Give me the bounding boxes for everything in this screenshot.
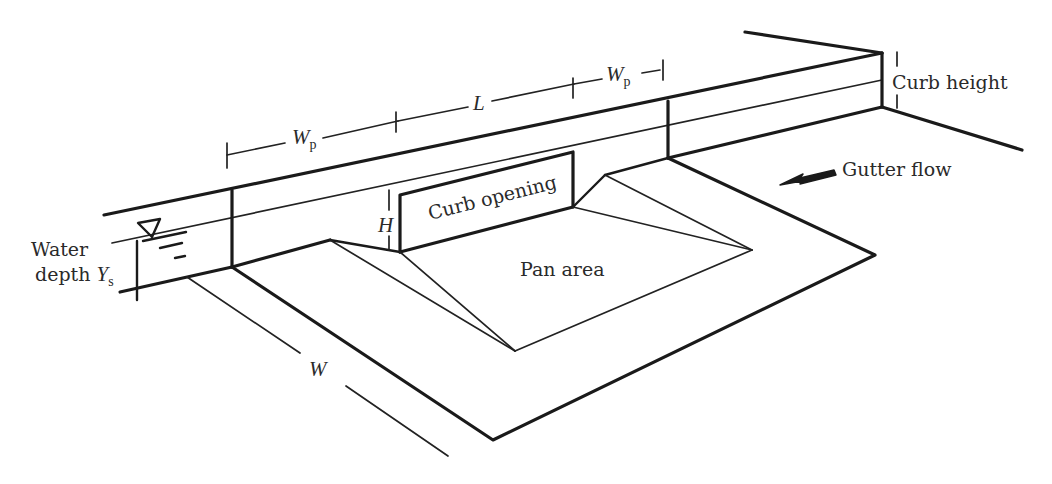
pan-transition-right-top xyxy=(605,158,668,175)
dim-segment-3 xyxy=(398,107,468,121)
curb-opening-inlet-diagram: Curb opening Pan area Water depth Ys Wp … xyxy=(0,0,1052,484)
dim-segment-1 xyxy=(227,143,285,155)
wp-right-label: Wp xyxy=(606,62,631,89)
gutter-line-pan-left xyxy=(232,240,330,267)
length-dimension: Wp L Wp xyxy=(227,60,663,168)
gutter-flow-indicator: Gutter flow xyxy=(780,158,952,185)
curb-back-edge xyxy=(745,32,882,53)
pan-fold-left-outer xyxy=(330,240,515,351)
curb-height-dimension: Curb height xyxy=(892,52,1008,108)
arrow-left-icon xyxy=(780,170,836,185)
road-edge-right xyxy=(882,107,1022,150)
water-depth-label-line2: depth Ys xyxy=(35,262,114,289)
pan-area-label: Pan area xyxy=(520,258,605,280)
dim-segment-6 xyxy=(642,70,660,73)
water-depth-label-line1: Water xyxy=(31,238,89,260)
depression-outline xyxy=(232,158,875,440)
opening-height-dimension: H xyxy=(377,190,395,250)
dim-segment-2 xyxy=(323,121,398,138)
w-dim-lower xyxy=(346,386,448,456)
dim-segment-4 xyxy=(492,84,574,101)
w-dim-upper xyxy=(187,277,300,353)
curb-opening-lip xyxy=(400,207,573,252)
width-label: W xyxy=(309,357,329,381)
curb-height-label: Curb height xyxy=(892,71,1008,93)
pan-fold-right-inner xyxy=(573,207,752,250)
height-label: H xyxy=(377,213,395,237)
curb-opening: Curb opening xyxy=(400,152,573,252)
dim-segment-5 xyxy=(574,79,602,84)
pan-fold-left-inner xyxy=(400,252,515,351)
water-surface-line-2 xyxy=(160,243,182,248)
pan-transition-right xyxy=(573,175,605,207)
wp-left-label: Wp xyxy=(292,125,317,152)
width-dimension: W xyxy=(187,277,448,456)
water-depth-indicator: Water depth Ys xyxy=(31,219,186,300)
water-surface-line-3 xyxy=(175,256,185,258)
gutter-flow-label: Gutter flow xyxy=(842,158,952,180)
length-label: L xyxy=(472,91,485,115)
gutter-line-right xyxy=(668,107,882,158)
